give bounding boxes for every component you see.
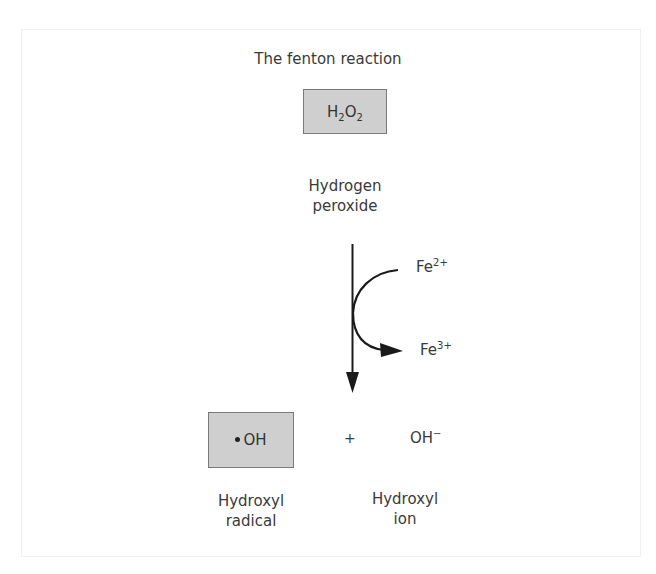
ferric-ion-label: Fe3+ (420, 341, 452, 359)
radical-dot-icon (235, 437, 240, 442)
hydroxyl-radical-box: OH (208, 412, 294, 468)
hydroxyl-radical-label: Hydroxyl radical (186, 491, 316, 531)
hydroxyl-radical-formula: OH (243, 431, 266, 449)
iron-oxidation-curved-arrow-icon (353, 270, 403, 357)
hydroxyl-ion-label: Hydroxyl ion (340, 489, 470, 529)
plus-operator: + (344, 430, 356, 446)
reaction-arrows (0, 0, 656, 574)
ferrous-ion-label: Fe2+ (416, 258, 448, 276)
hydroxyl-ion-formula: OH− (410, 429, 441, 447)
